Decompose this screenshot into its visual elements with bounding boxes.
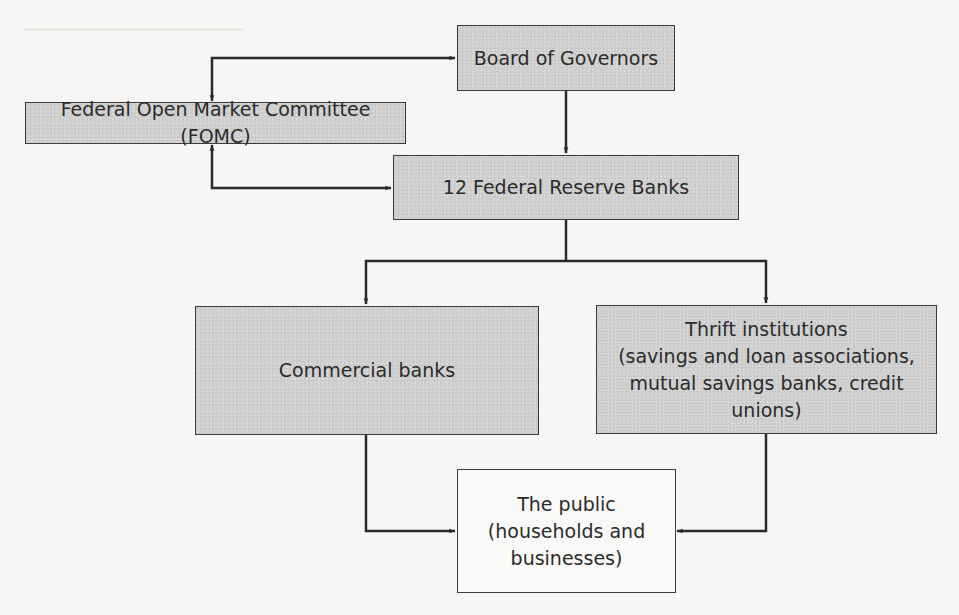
node-label-line-3: businesses) bbox=[511, 545, 623, 572]
edge-fomc-frb bbox=[212, 145, 391, 188]
node-label-line-1: Thrift institutions bbox=[685, 316, 847, 343]
node-label: Board of Governors bbox=[474, 45, 658, 72]
node-thrift-institutions: Thrift institutions (savings and loan as… bbox=[596, 305, 937, 434]
node-label-line-3: mutual savings banks, credit unions) bbox=[597, 370, 936, 424]
node-label-line-2: (households and bbox=[488, 518, 645, 545]
node-the-public: The public (households and businesses) bbox=[457, 469, 676, 593]
edge-frb-commercial bbox=[366, 261, 566, 304]
node-federal-reserve-banks: 12 Federal Reserve Banks bbox=[393, 155, 739, 220]
node-label-line-1: The public bbox=[517, 491, 616, 518]
node-board-of-governors: Board of Governors bbox=[457, 25, 675, 91]
node-label: 12 Federal Reserve Banks bbox=[443, 174, 689, 201]
edge-thrift-public bbox=[677, 434, 766, 531]
node-fomc: Federal Open Market Committee (FOMC) bbox=[25, 102, 406, 144]
edge-commercial-public bbox=[366, 435, 455, 531]
node-commercial-banks: Commercial banks bbox=[195, 306, 539, 435]
edge-board-fomc bbox=[212, 58, 455, 101]
node-label-line-2: (savings and loan associations, bbox=[618, 343, 915, 370]
node-label: Federal Open Market Committee (FOMC) bbox=[26, 96, 405, 150]
edge-frb-thrift bbox=[566, 261, 766, 303]
node-label: Commercial banks bbox=[279, 357, 455, 384]
